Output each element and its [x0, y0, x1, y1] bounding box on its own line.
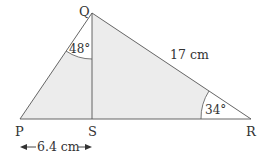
triangle-diagram: Q P S R 48° 34° 17 cm 6.4 cm [0, 0, 273, 158]
length-label-qr: 17 cm [170, 47, 209, 62]
arrowhead-left-icon [20, 144, 27, 150]
length-label-ps: 6.4 cm [37, 139, 80, 154]
vertex-label-q: Q [79, 4, 90, 19]
vertex-label-p: P [15, 124, 24, 139]
arrowhead-right-icon [85, 144, 92, 150]
vertex-label-r: R [246, 124, 257, 139]
angle-label-q: 48° [69, 42, 90, 56]
angle-label-r: 34° [205, 103, 226, 117]
vertex-label-s: S [88, 124, 97, 139]
